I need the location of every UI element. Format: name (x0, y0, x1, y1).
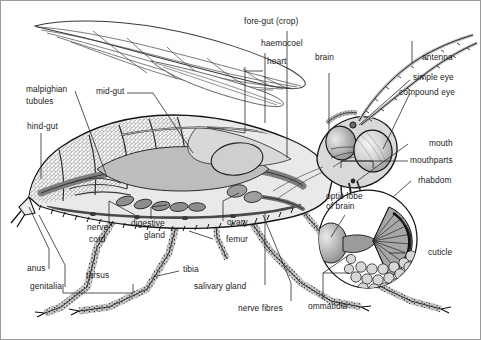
label-malpighian-1: malpighian (26, 85, 67, 95)
label-rhabdom: rhabdom (418, 176, 452, 186)
label-simple-eye: simple eye (413, 73, 454, 83)
label-ovary: ovary (227, 218, 248, 228)
label-digestive-2: gland (144, 231, 165, 241)
label-cuticle: cuticle (428, 248, 452, 258)
label-tarsus: tarsus (86, 271, 109, 281)
label-ommatidia: ommatidia (308, 302, 347, 312)
label-mouthparts: mouthparts (410, 156, 453, 166)
label-fore-gut: fore-gut (crop) (244, 17, 298, 27)
label-mid-gut: mid-gut (96, 87, 125, 97)
label-brain: brain (315, 53, 334, 63)
label-salivary-gland: salivary gland (194, 282, 246, 292)
label-heart: heart (267, 57, 287, 67)
label-femur: femur (226, 235, 248, 245)
label-compound-eye: compound eye (399, 88, 455, 98)
label-digestive-1: digestive (131, 219, 165, 229)
label-anus: anus (27, 264, 45, 274)
label-haemocoel: haemocoel (261, 39, 303, 49)
label-mouth: mouth (429, 139, 453, 149)
label-antenna: antenna (422, 53, 453, 63)
label-genitalia: genitalia (30, 282, 62, 292)
insect-anatomy-figure: fore-gut (crop) haemocoel heart brain an… (0, 0, 481, 340)
label-nerve-cord-2: cord (89, 235, 106, 245)
label-optic-lobe-2: of brain (326, 202, 355, 212)
label-malpighian-2: tubules (26, 97, 54, 107)
label-hind-gut: hind-gut (27, 122, 58, 132)
body-group (11, 115, 333, 231)
label-nerve-fibres: nerve fibres (238, 304, 283, 314)
label-nerve-cord-1: nerve (87, 223, 108, 233)
label-tibia: tibia (183, 265, 199, 275)
